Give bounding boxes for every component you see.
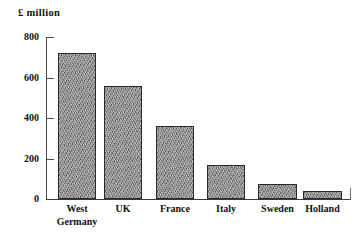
- y-axis-unit-label: £ million: [18, 7, 60, 18]
- bar: [104, 86, 142, 199]
- x-axis-category-label: Holland: [289, 203, 356, 216]
- bar: [156, 126, 194, 199]
- y-axis-tick-label: 800: [24, 30, 39, 43]
- bar: [303, 191, 342, 199]
- y-axis-tick-mark: [46, 78, 54, 79]
- bar: [258, 184, 297, 199]
- y-axis-tick-label: 400: [24, 111, 39, 124]
- y-axis-tick-mark: [46, 159, 54, 160]
- y-axis-tick-mark: [46, 118, 54, 119]
- bar: [207, 165, 245, 199]
- y-axis-tick-label: 600: [24, 71, 39, 84]
- y-axis-tick-label: 200: [24, 152, 39, 165]
- y-axis-tick-mark: [46, 37, 54, 38]
- x-axis-line: [46, 199, 351, 200]
- bar-chart: £ million 0200400600800 West GermanyUKFr…: [0, 0, 359, 242]
- bar: [58, 53, 96, 199]
- plot-area: 0200400600800: [46, 37, 351, 199]
- y-axis-tick-label: 0: [34, 192, 39, 205]
- x-axis-end-tick: [350, 188, 351, 200]
